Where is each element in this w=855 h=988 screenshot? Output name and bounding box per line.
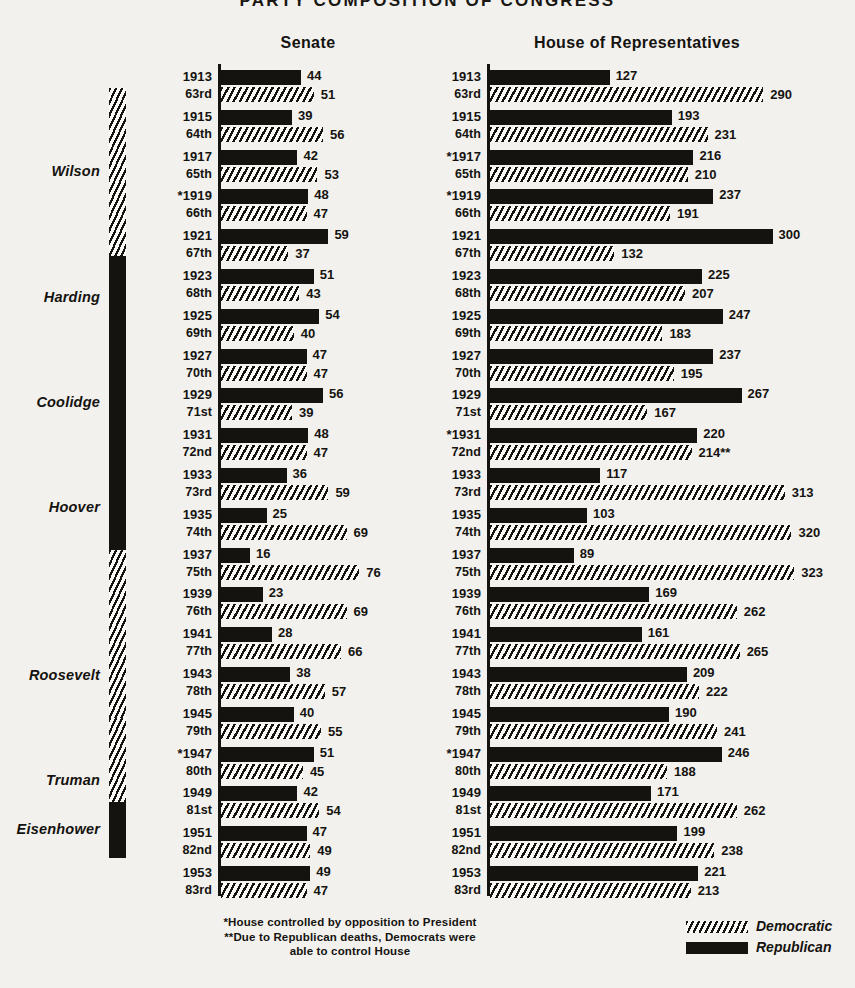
- row-year-label: *1917: [430, 149, 481, 164]
- democratic-value-label: 290: [770, 87, 792, 102]
- democratic-value-label: 231: [715, 127, 737, 142]
- republican-bar: [490, 428, 697, 443]
- party-stripe-segment: [109, 802, 126, 858]
- row-congress-label: 64th: [430, 127, 481, 141]
- democratic-value-label: 40: [301, 326, 315, 341]
- row-year-label: 1935: [132, 507, 212, 522]
- republican-bar: [221, 110, 292, 125]
- republican-value-label: 44: [307, 68, 321, 83]
- hatched-swatch-icon: [686, 921, 748, 933]
- republican-bar: [490, 508, 587, 523]
- democratic-bar: [490, 127, 708, 142]
- row-congress-label: 63rd: [132, 87, 212, 101]
- republican-value-label: 42: [303, 148, 317, 163]
- democratic-bar: [490, 803, 737, 818]
- democratic-value-label: 43: [306, 286, 320, 301]
- republican-bar: [490, 667, 687, 682]
- republican-bar: [490, 388, 742, 403]
- democratic-bar: [221, 445, 307, 460]
- republican-value-label: 40: [300, 705, 314, 720]
- republican-bar: [221, 229, 328, 244]
- democratic-bar: [490, 405, 647, 420]
- republican-value-label: 237: [719, 347, 741, 362]
- democratic-value-label: 47: [314, 206, 328, 221]
- president-label: Wilson: [0, 163, 100, 179]
- row-congress-label: 80th: [430, 764, 481, 778]
- democratic-value-label: 76: [366, 565, 380, 580]
- row-congress-label: 66th: [430, 206, 481, 220]
- row-year-label: 1943: [430, 666, 481, 681]
- democratic-bar: [221, 485, 328, 500]
- republican-value-label: 103: [593, 506, 615, 521]
- row-year-label: 1915: [430, 109, 481, 124]
- row-year-label: 1929: [430, 387, 481, 402]
- republican-value-label: 193: [678, 108, 700, 123]
- democratic-bar: [221, 206, 307, 221]
- row-year-label: 1939: [132, 586, 212, 601]
- row-year-label: *1931: [430, 427, 481, 442]
- solid-black-swatch-icon: [686, 942, 748, 954]
- row-congress-label: 69th: [430, 326, 481, 340]
- republican-bar: [490, 468, 600, 483]
- row-congress-label: 71st: [132, 405, 212, 419]
- democratic-bar: [221, 246, 288, 261]
- democratic-bar: [221, 724, 321, 739]
- democratic-bar: [490, 843, 714, 858]
- row-congress-label: 65th: [132, 167, 212, 181]
- republican-bar: [221, 707, 294, 722]
- democratic-value-label: 49: [317, 843, 331, 858]
- row-congress-label: 65th: [430, 167, 481, 181]
- row-year-label: *1919: [430, 188, 481, 203]
- row-year-label: 1951: [132, 825, 212, 840]
- republican-value-label: 221: [704, 864, 726, 879]
- democratic-value-label: 132: [621, 246, 643, 261]
- row-year-label: 1953: [430, 865, 481, 880]
- republican-value-label: 199: [683, 824, 705, 839]
- republican-value-label: 56: [329, 386, 343, 401]
- senate-panel: 191363rd4451191564th3956191765th4253*191…: [132, 62, 432, 920]
- democratic-value-label: 222: [706, 684, 728, 699]
- democratic-bar: [490, 724, 717, 739]
- row-congress-label: 77th: [132, 644, 212, 658]
- president-party-stripe: [109, 62, 126, 920]
- row-year-label: 1945: [132, 706, 212, 721]
- democratic-bar: [490, 366, 674, 381]
- row-year-label: 1945: [430, 706, 481, 721]
- democratic-value-label: 195: [681, 366, 703, 381]
- democratic-bar: [490, 326, 662, 341]
- row-year-label: 1923: [430, 268, 481, 283]
- row-year-label: 1949: [430, 785, 481, 800]
- republican-value-label: 16: [256, 546, 270, 561]
- row-congress-label: 69th: [132, 326, 212, 340]
- democratic-value-label: 37: [295, 246, 309, 261]
- president-label: Truman: [0, 772, 100, 788]
- republican-bar: [221, 548, 250, 563]
- republican-value-label: 47: [313, 824, 327, 839]
- republican-value-label: 169: [655, 585, 677, 600]
- democratic-value-label: 265: [747, 644, 769, 659]
- house-panel: 191363rd127290191564th193231*191765th216…: [430, 62, 855, 920]
- republican-value-label: 209: [693, 665, 715, 680]
- row-congress-label: 68th: [430, 286, 481, 300]
- democratic-bar: [221, 565, 359, 580]
- republican-bar: [221, 388, 323, 403]
- president-label: Harding: [0, 289, 100, 305]
- democratic-bar: [221, 286, 299, 301]
- republican-bar: [490, 707, 669, 722]
- democratic-value-label: 214**: [699, 445, 731, 460]
- republican-value-label: 127: [616, 68, 638, 83]
- democratic-value-label: 47: [314, 445, 328, 460]
- republican-bar: [490, 587, 649, 602]
- democratic-value-label: 191: [677, 206, 699, 221]
- senate-column-header: Senate: [218, 34, 398, 52]
- democratic-bar: [490, 246, 614, 261]
- democratic-value-label: 238: [721, 843, 743, 858]
- row-congress-label: 83rd: [132, 883, 212, 897]
- democratic-bar: [490, 684, 699, 699]
- democratic-bar: [221, 326, 294, 341]
- row-year-label: 1929: [132, 387, 212, 402]
- republican-value-label: 190: [675, 705, 697, 720]
- democratic-value-label: 323: [801, 565, 823, 580]
- row-year-label: *1947: [430, 746, 481, 761]
- republican-value-label: 237: [719, 187, 741, 202]
